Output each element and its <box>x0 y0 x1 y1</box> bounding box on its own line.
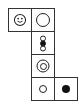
cell-filled-dot <box>54 77 78 101</box>
cell-three-circles <box>31 31 55 55</box>
small-circle-icon <box>39 85 47 93</box>
cell-smiley <box>8 8 32 32</box>
large-circle-icon <box>36 13 50 27</box>
cell-concentric <box>31 54 55 78</box>
smiley-face-icon <box>14 14 27 27</box>
cell-large-circle <box>31 8 55 32</box>
filled-dot-icon <box>62 85 70 93</box>
concentric-circles-icon <box>37 60 50 73</box>
cell-small-circle <box>31 77 55 101</box>
three-circles-icon <box>40 36 46 51</box>
